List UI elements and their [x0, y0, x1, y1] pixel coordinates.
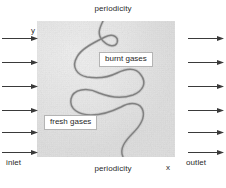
inlet-arrow-4 — [2, 107, 38, 114]
outlet-arrow-2 — [188, 59, 224, 66]
flame-front-diagram: periodicity — [0, 0, 226, 188]
inlet-arrow-5 — [2, 129, 38, 136]
outlet-arrow-5 — [188, 129, 224, 136]
periodicity-label-bottom: periodicity — [0, 164, 226, 173]
flame-front-curve — [37, 21, 175, 157]
inlet-arrow-3 — [2, 83, 38, 90]
computational-domain — [37, 21, 175, 157]
outlet-arrow-1 — [188, 35, 224, 42]
burnt-gases-label: burnt gases — [99, 52, 153, 67]
outlet-arrow-4 — [188, 107, 224, 114]
inlet-arrow-6 — [2, 149, 38, 156]
inlet-arrow-1 — [2, 35, 38, 42]
inlet-arrow-2 — [2, 59, 38, 66]
outlet-arrow-6 — [188, 149, 224, 156]
fresh-gases-label: fresh gases — [44, 115, 97, 130]
outlet-arrow-3 — [188, 83, 224, 90]
axis-label-y: y — [31, 26, 35, 35]
